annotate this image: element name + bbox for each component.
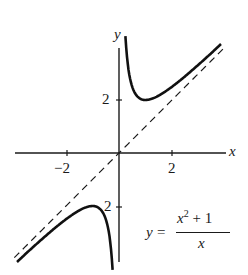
curve-branch-negative [17,206,113,270]
equation-lhs: y [146,224,153,241]
y-tick-label-2: 2 [102,92,110,107]
graph-canvas [0,0,248,275]
y-tick-label-neg2: 2 [104,199,112,214]
equation-numerator: x2 + 1 [177,208,212,227]
equation-equals: = [157,224,165,241]
x-tick-label-2: 2 [168,161,176,176]
x-tick-label-neg2: −2 [54,161,70,176]
fraction-bar [176,232,230,233]
x-axis-label: x [229,144,236,159]
numerator-base: x [177,210,184,226]
equation-denominator: x [198,235,205,252]
curve-branch-positive [125,36,221,100]
y-axis-label: y [114,27,121,42]
numerator-rest: + 1 [189,210,212,226]
